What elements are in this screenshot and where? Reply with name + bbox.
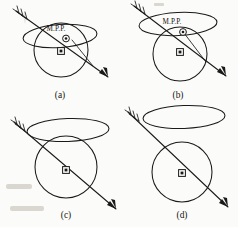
panel-b-secondary-ray — [184, 33, 206, 62]
panel-d-boxed-square-icon — [179, 170, 186, 177]
panel-b: M.P.P. (b) — [131, 1, 226, 101]
panel-c-arrow-shaft — [14, 122, 116, 209]
four-panel-sphere-plane-figure: M.P.P. (a) — [0, 0, 238, 227]
panel-b-boxed-square-icon — [177, 49, 184, 56]
panel-d-plane-ellipse — [143, 104, 226, 130]
panel-a-mpp-label: M.P.P. — [46, 25, 65, 33]
panel-c: (c) — [11, 117, 116, 221]
panel-a-arrow-head — [99, 67, 108, 77]
panel-b-caption: (b) — [173, 90, 184, 101]
panel-c-arrow-head — [107, 199, 116, 209]
panel-a: M.P.P. (a) — [13, 6, 108, 101]
panel-c-arrow-fletching — [11, 117, 25, 131]
panel-d-arrow-fletching — [125, 107, 139, 121]
panel-c-plane-ellipse — [27, 117, 110, 143]
panel-a-arrow-shaft — [16, 11, 108, 77]
panel-d-caption: (d) — [177, 210, 188, 221]
panel-d-arrow-shaft — [128, 112, 228, 207]
panel-a-circled-dot-icon — [63, 35, 70, 42]
panel-d-arrow-head — [219, 197, 228, 207]
panel-b-arrow-head — [217, 66, 226, 76]
panel-a-caption: (a) — [55, 90, 65, 101]
panel-c-caption: (c) — [61, 210, 71, 221]
figure-container: M.P.P. (a) — [0, 0, 238, 227]
panel-c-boxed-square-icon — [63, 167, 70, 174]
panel-b-arrow-fletching — [131, 1, 145, 14]
panel-b-mpp-label: M.P.P. — [162, 18, 181, 26]
panel-b-circled-dot-icon — [180, 29, 187, 36]
panel-d: (d) — [125, 104, 228, 221]
scan-artifacts — [6, 3, 164, 211]
panel-a-boxed-square-icon — [58, 48, 65, 55]
